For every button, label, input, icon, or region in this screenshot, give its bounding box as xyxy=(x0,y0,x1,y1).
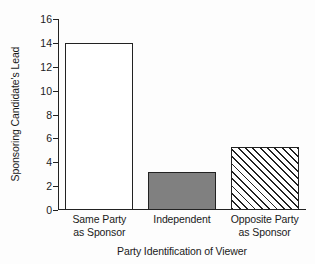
y-tick-label: 4 xyxy=(30,157,52,167)
x-tick-label-line: Same Party xyxy=(58,213,141,226)
y-axis-tick-labels: 0246810121416 xyxy=(26,0,52,264)
y-tick-label: 8 xyxy=(30,110,52,120)
x-tick-label-line: as Sponsor xyxy=(58,226,141,239)
x-tick-label-line: Independent xyxy=(141,213,224,226)
y-tick-label: 16 xyxy=(30,14,52,24)
y-tick-label: 12 xyxy=(30,62,52,72)
x-axis-category-labels: Same Partyas SponsorIndependentOpposite … xyxy=(58,213,306,243)
x-axis-title: Party Identification of Viewer xyxy=(58,245,306,257)
x-tick-label-line: as Sponsor xyxy=(223,226,306,239)
y-tick-label: 0 xyxy=(30,205,52,215)
plot-area xyxy=(58,19,306,210)
bar-chart: Sponsoring Candidate's Lead 024681012141… xyxy=(0,0,315,264)
y-axis-title: Sponsoring Candidate's Lead xyxy=(6,19,24,209)
y-tick-label: 14 xyxy=(30,38,52,48)
y-tick-label: 10 xyxy=(30,86,52,96)
x-tick-label-line: Opposite Party xyxy=(223,213,306,226)
bar xyxy=(65,43,133,210)
bar xyxy=(148,172,216,210)
x-tick-label: Opposite Partyas Sponsor xyxy=(223,213,306,238)
bar xyxy=(231,147,299,210)
y-tick-label: 6 xyxy=(30,133,52,143)
y-tick-mark xyxy=(53,210,58,211)
x-tick-label: Independent xyxy=(141,213,224,226)
y-tick-label: 2 xyxy=(30,181,52,191)
x-tick-label: Same Partyas Sponsor xyxy=(58,213,141,238)
